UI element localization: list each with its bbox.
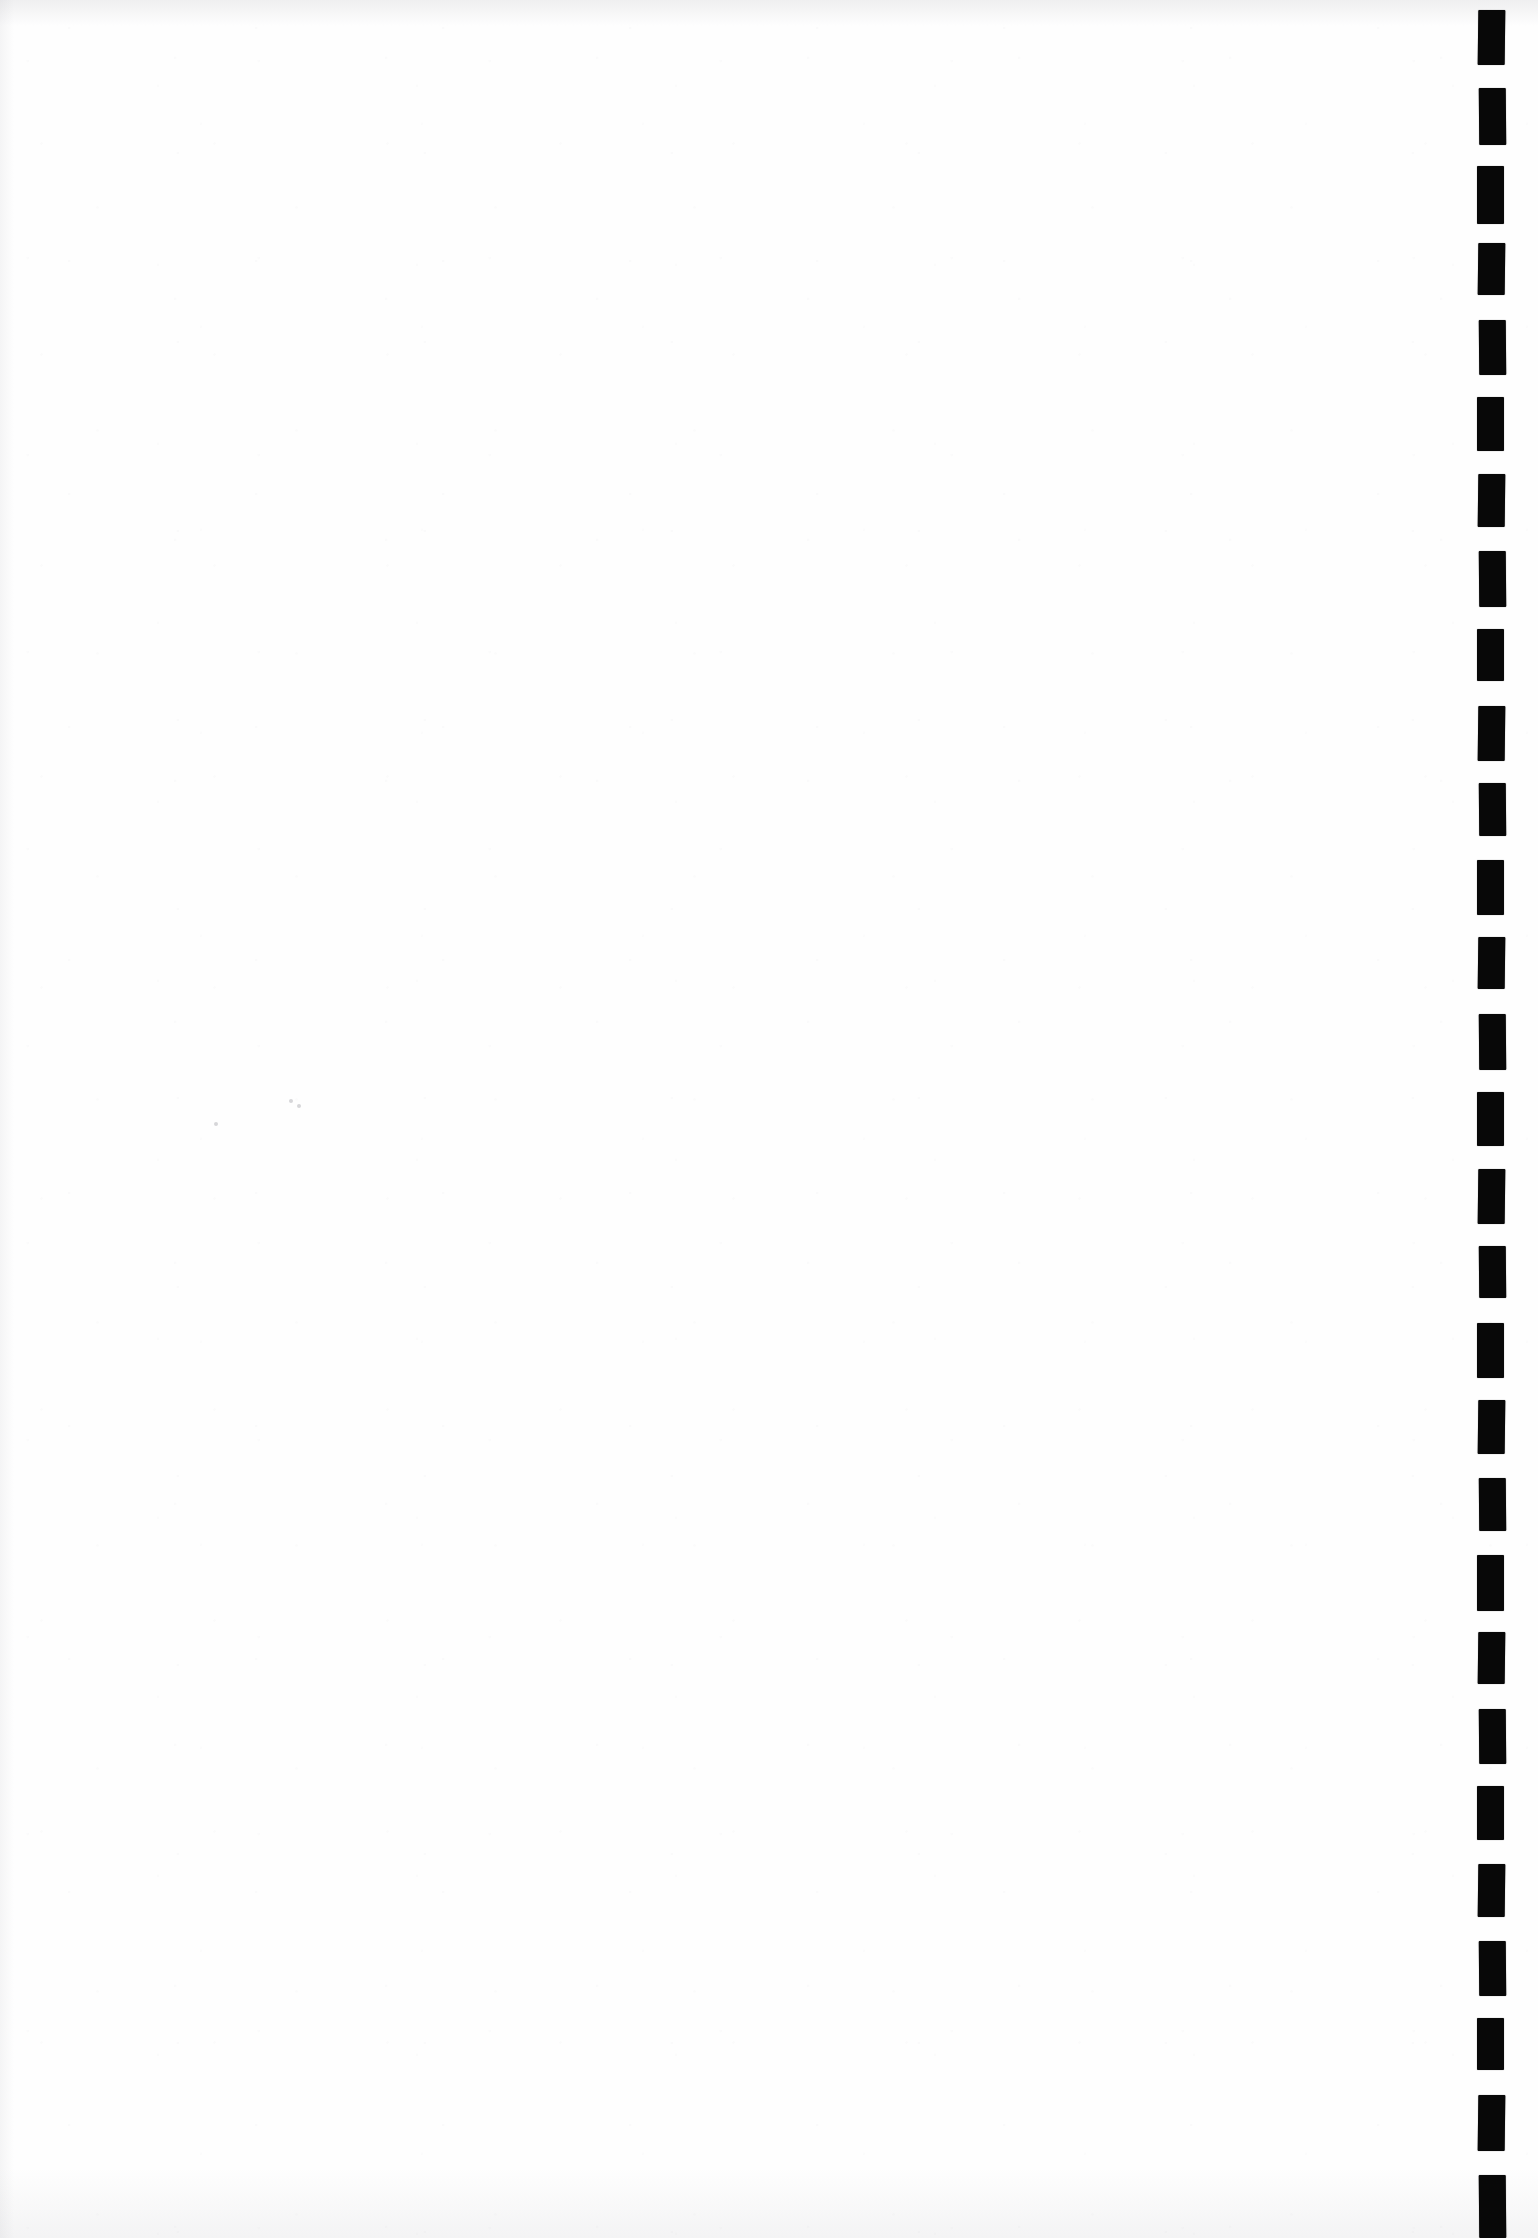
registration-mark <box>1478 243 1506 295</box>
registration-mark <box>1477 629 1504 681</box>
registration-mark <box>1478 474 1506 527</box>
registration-mark <box>1477 1092 1504 1146</box>
registration-mark <box>1478 1632 1506 1684</box>
registration-mark <box>1479 320 1506 375</box>
registration-mark <box>1478 1400 1506 1454</box>
registration-mark <box>1477 860 1504 915</box>
registration-mark <box>1477 1555 1504 1611</box>
registration-mark <box>1477 2018 1504 2070</box>
registration-mark <box>1479 1478 1506 1531</box>
registration-mark <box>1479 783 1506 836</box>
scanned-page <box>0 0 1538 2238</box>
registration-mark <box>1478 10 1506 65</box>
registration-mark <box>1479 1941 1506 1996</box>
paper-surface <box>0 0 1538 2238</box>
registration-mark <box>1479 1014 1506 1070</box>
registration-mark <box>1479 551 1506 607</box>
registration-mark <box>1479 88 1506 145</box>
registration-mark <box>1479 1709 1506 1764</box>
registration-mark <box>1478 2095 1506 2151</box>
registration-mark <box>1478 937 1506 989</box>
registration-mark <box>1478 1864 1506 1917</box>
registration-mark <box>1477 397 1504 451</box>
registration-mark <box>1477 166 1504 224</box>
registration-mark-column <box>1472 0 1514 2238</box>
registration-mark <box>1477 1323 1504 1378</box>
registration-mark <box>1477 1786 1504 1840</box>
registration-mark <box>1479 1246 1506 1298</box>
registration-mark <box>1478 706 1506 761</box>
registration-mark <box>1478 1169 1506 1224</box>
registration-mark <box>1479 2175 1507 2238</box>
